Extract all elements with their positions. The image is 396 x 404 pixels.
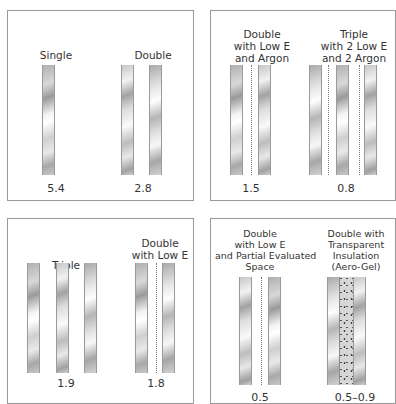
label-double-lowe: Double with Low E [129, 237, 191, 261]
low-e-coating [251, 65, 253, 175]
value-triple-lowe-argon: 0.8 [326, 182, 366, 195]
label-double-lowe-partial-vacuum: Double with Low E and Partial Evaluated … [215, 228, 305, 272]
label-double: Double [118, 49, 188, 61]
value-partial-vacuum: 0.5 [242, 391, 278, 404]
glass-pane [309, 65, 322, 175]
glass-pane [42, 65, 55, 175]
glass-pane [56, 263, 69, 373]
glass-pane [239, 277, 252, 385]
panel-triple-lowe: Triple 1.9 Double with Low E 1.8 [7, 218, 194, 404]
glass-pane [364, 65, 377, 175]
label-aerogel: Double with Transparent Insulation (Aero… [321, 228, 391, 272]
value-single: 5.4 [28, 182, 84, 195]
glass-pane [268, 277, 281, 385]
glass-pane [230, 65, 243, 175]
label-single: Single [28, 49, 84, 61]
value-aerogel: 0.5–0.9 [327, 391, 383, 404]
label-triple-lowe-argon: Triple with 2 Low E and 2 Argon [311, 28, 396, 64]
value-double: 2.8 [118, 182, 168, 195]
glass-pane [27, 263, 40, 373]
glass-pane [162, 263, 175, 373]
low-e-coating [328, 65, 330, 175]
low-e-coating [261, 277, 263, 385]
glass-pane [149, 65, 162, 175]
low-e-coating [359, 65, 361, 175]
panel-single-double: Single 5.4 Double 2.8 [7, 10, 194, 201]
glass-pane [121, 65, 134, 175]
aerogel-insulation [339, 277, 354, 385]
panel-lowe-argon: Double with Low E and Argon 1.5 Triple w… [210, 10, 396, 201]
glass-pane [135, 263, 148, 373]
label-double-lowe-argon: Double with Low E and Argon [223, 28, 301, 64]
panel-vacuum-aerogel: Double with Low E and Partial Evaluated … [210, 218, 396, 404]
glass-pane [336, 65, 349, 175]
value-triple: 1.9 [48, 377, 84, 390]
value-double-lowe-argon: 1.5 [231, 182, 271, 195]
low-e-coating [156, 263, 158, 373]
glass-pane [353, 277, 366, 385]
glass-pane [84, 263, 97, 373]
value-double-lowe: 1.8 [138, 377, 174, 390]
glass-pane [258, 65, 271, 175]
